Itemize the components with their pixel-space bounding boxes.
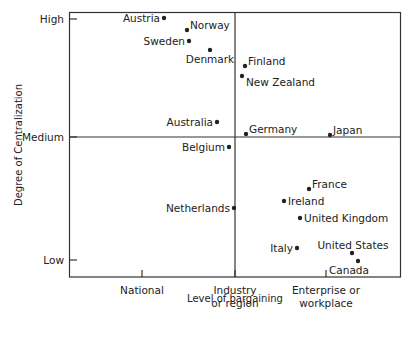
point-label: Denmark xyxy=(186,53,235,65)
point-label: Sweden xyxy=(144,35,186,47)
point-marker xyxy=(215,120,219,124)
point-marker xyxy=(244,132,248,136)
point-label: Belgium xyxy=(182,141,225,153)
y-tick-label: High xyxy=(40,13,64,25)
point-marker xyxy=(187,39,191,43)
point-label: New Zealand xyxy=(246,76,315,88)
point-label: Canada xyxy=(329,264,369,276)
point-label: Japan xyxy=(332,124,362,136)
point-label: Ireland xyxy=(288,195,324,207)
point-marker xyxy=(240,74,244,78)
point-marker xyxy=(185,28,189,32)
point-label: France xyxy=(312,178,347,190)
point-marker xyxy=(208,48,212,52)
point-marker xyxy=(350,251,354,255)
y-tick-label: Low xyxy=(43,254,64,266)
point-label: Germany xyxy=(249,123,297,135)
point-label: Finland xyxy=(248,55,286,67)
data-point: Germany xyxy=(244,123,297,136)
point-marker xyxy=(328,133,332,137)
data-point: Australia xyxy=(167,116,220,128)
point-marker xyxy=(162,16,166,20)
point-marker xyxy=(282,199,286,203)
point-marker xyxy=(227,145,231,149)
y-tick-label: Medium xyxy=(22,131,64,143)
data-point: Belgium xyxy=(182,141,231,153)
point-marker xyxy=(356,259,360,263)
y-axis-ticks: HighMediumLow xyxy=(22,13,77,266)
point-label: Italy xyxy=(270,242,293,254)
data-point: United States xyxy=(317,239,388,255)
point-marker xyxy=(232,206,236,210)
point-marker xyxy=(298,216,302,220)
data-point: Austria xyxy=(123,12,166,24)
data-point: New Zealand xyxy=(240,74,315,88)
point-label: Norway xyxy=(190,19,230,31)
point-marker xyxy=(295,246,299,250)
data-point: Denmark xyxy=(186,48,235,65)
point-label: United States xyxy=(317,239,388,251)
x-axis-title: Level of bargaining xyxy=(187,293,283,304)
point-marker xyxy=(307,187,311,191)
data-point: Finland xyxy=(243,55,286,68)
point-label: Austria xyxy=(123,12,160,24)
x-tick-label: Enterprise or xyxy=(292,284,361,296)
data-point: Ireland xyxy=(282,195,325,207)
point-label: United Kingdom xyxy=(304,212,388,224)
data-point: Sweden xyxy=(144,35,192,47)
data-point: Norway xyxy=(185,19,230,32)
data-point: Japan xyxy=(328,124,362,137)
y-axis-title: Degree of Centralization xyxy=(13,84,24,206)
data-point: United Kingdom xyxy=(298,212,388,224)
data-point: Canada xyxy=(329,259,369,276)
data-point: Italy xyxy=(270,242,299,254)
point-label: Australia xyxy=(167,116,213,128)
point-marker xyxy=(243,64,247,68)
data-points: AustriaNorwaySwedenDenmarkFinlandNew Zea… xyxy=(123,12,389,277)
data-point: France xyxy=(307,178,347,191)
data-point: Netherlands xyxy=(166,202,236,214)
x-tick-label: National xyxy=(120,284,164,296)
point-label: Netherlands xyxy=(166,202,230,214)
x-tick-label: workplace xyxy=(299,297,353,309)
scatter-chart: HighMediumLow NationalIndustryor regionE… xyxy=(0,0,414,343)
